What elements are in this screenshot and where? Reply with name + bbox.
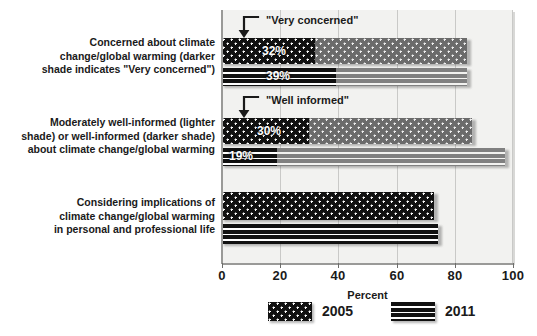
category-label-concerned: Concerned about climate change/global wa… <box>0 36 215 77</box>
bar-2011-concerned[interactable] <box>222 68 467 86</box>
annotation-label: "Very concerned" <box>266 14 358 26</box>
x-tick-label-20: 20 <box>273 268 288 283</box>
annotation-label: "Well informed" <box>266 94 349 106</box>
bar-2011-considering[interactable] <box>222 224 438 244</box>
bar-2011-well-informed[interactable] <box>222 148 505 166</box>
category-label-line: change/global warming (darker <box>0 50 215 64</box>
bar-segment-light <box>336 68 467 86</box>
legend-swatch-2005 <box>268 302 312 321</box>
down-arrow-icon <box>236 94 262 120</box>
x-tick-label-60: 60 <box>390 268 405 283</box>
category-label-line: climate change/global warming <box>0 210 215 224</box>
gridline-100 <box>512 10 513 263</box>
bar-segment-dark <box>222 192 434 220</box>
category-label-line: Moderately well-informed (lighter <box>0 116 215 130</box>
x-tick-label-80: 80 <box>448 268 463 283</box>
bar-value-2005-well-informed: 30% <box>257 124 281 138</box>
category-label-line: shade indicates "Very concerned") <box>0 63 215 77</box>
bar-chart: Concerned about climate change/global wa… <box>0 0 537 336</box>
x-tick-label-0: 0 <box>218 268 225 283</box>
down-arrow-icon <box>236 14 262 40</box>
bar-2005-concerned[interactable] <box>222 38 467 64</box>
x-tick-label-100: 100 <box>502 268 524 283</box>
legend-swatch-2011 <box>391 302 435 321</box>
legend-label-2005: 2005 <box>322 302 353 321</box>
y-axis-line <box>221 10 223 264</box>
bar-value-2011-concerned: 39% <box>266 69 290 83</box>
category-label-well-informed: Moderately well-informed (lighter shade)… <box>0 116 215 157</box>
bar-value-2005-concerned: 32% <box>262 44 286 58</box>
legend: 2005 2011 <box>0 300 537 330</box>
x-axis-line <box>222 263 514 265</box>
category-label-line: about climate change/global warming <box>0 143 215 157</box>
category-label-line: Concerned about climate <box>0 36 215 50</box>
bar-segment-light <box>309 118 472 144</box>
category-label-line: shade) or well-informed (darker shade) <box>0 130 215 144</box>
category-label-line: in personal and professional life <box>0 223 215 237</box>
bar-segment-light <box>277 148 505 166</box>
bar-2005-considering[interactable] <box>222 192 434 220</box>
bar-segment-dark <box>222 224 438 244</box>
bar-value-2011-well-informed: 19% <box>229 149 253 163</box>
category-label-line: Considering implications of <box>0 196 215 210</box>
bar-segment-light <box>315 38 467 64</box>
x-tick-label-40: 40 <box>331 268 346 283</box>
category-label-considering: Considering implications of climate chan… <box>0 196 215 237</box>
legend-label-2011: 2011 <box>445 302 475 321</box>
